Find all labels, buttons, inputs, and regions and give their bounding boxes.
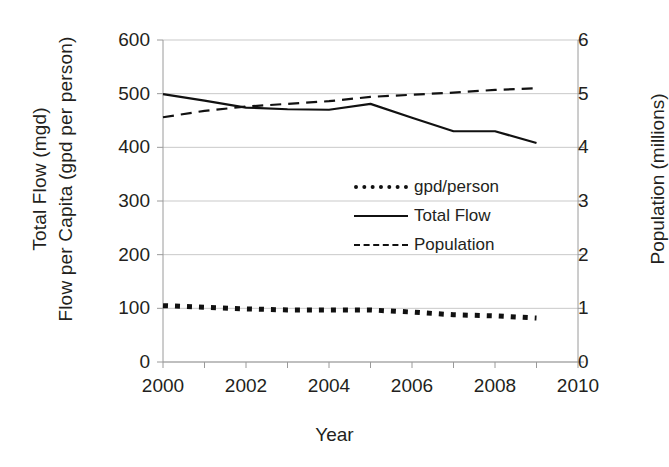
series-line-total-flow xyxy=(163,94,537,143)
y-axis-left-tick-label: 100 xyxy=(98,298,150,317)
y-axis-left-tick-label: 300 xyxy=(98,191,150,210)
y-axis-left-tick-label: 400 xyxy=(98,137,150,156)
y-axis-right-tick-label: 3 xyxy=(578,191,604,210)
y-axis-right-tick-label: 2 xyxy=(578,245,604,264)
legend-key-dashed-icon xyxy=(352,238,410,252)
x-axis-tick-label: 2010 xyxy=(543,376,613,395)
y-axis-right-ticks: 0123456 xyxy=(578,0,604,467)
y-axis-left-tick-label: 0 xyxy=(98,352,150,371)
y-axis-left-title-line1: Total Flow (mgd) xyxy=(29,29,51,329)
legend-label-gpd-person: gpd/person xyxy=(414,177,499,197)
y-axis-right-tick-label: 1 xyxy=(578,298,604,317)
series-line-gpd-person xyxy=(163,306,537,318)
y-axis-left-tick-label: 600 xyxy=(98,30,150,49)
y-axis-left-title-line2: Flow per Capita (gpd per person) xyxy=(55,29,77,329)
legend-key-solid-icon xyxy=(352,209,410,223)
legend-item-gpd-person: gpd/person xyxy=(352,172,557,201)
y-axis-right-tick-label: 5 xyxy=(578,84,604,103)
legend: gpd/person Total Flow Population xyxy=(352,172,557,259)
x-axis-tick-label: 2006 xyxy=(377,376,447,395)
y-axis-right-tick-label: 6 xyxy=(578,30,604,49)
y-axis-right-tick-label: 4 xyxy=(578,137,604,156)
x-axis-tick-label: 2002 xyxy=(211,376,281,395)
legend-label-total-flow: Total Flow xyxy=(414,206,491,226)
legend-label-population: Population xyxy=(414,235,494,255)
y-axis-right-tick-label: 0 xyxy=(578,352,604,371)
y-axis-left-ticks: 0100200300400500600 xyxy=(98,0,150,467)
legend-item-total-flow: Total Flow xyxy=(352,201,557,230)
x-axis-tick-label: 2000 xyxy=(128,376,198,395)
legend-key-dotted-icon xyxy=(352,180,410,194)
y-axis-left-tick-label: 200 xyxy=(98,245,150,264)
x-axis-tick-label: 2008 xyxy=(460,376,530,395)
legend-item-population: Population xyxy=(352,230,557,259)
x-axis-tick-label: 2004 xyxy=(294,376,364,395)
chart-figure: Total Flow (mgd) Flow per Capita (gpd pe… xyxy=(0,0,669,467)
y-axis-left-tick-label: 500 xyxy=(98,84,150,103)
y-axis-right-title: Population (millions) xyxy=(647,29,669,329)
